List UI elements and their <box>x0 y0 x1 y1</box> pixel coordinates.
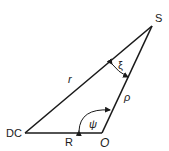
side-rho <box>102 26 152 133</box>
side-r <box>25 26 152 133</box>
triangle-diagram: S DC O R r ρ ξ ψ <box>0 0 169 151</box>
side-label-rho: ρ <box>123 91 130 103</box>
angle-label-xi: ξ <box>118 59 123 71</box>
vertex-label-o: O <box>100 136 109 150</box>
vertex-label-s: S <box>155 12 162 24</box>
vertex-label-dc: DC <box>6 127 22 139</box>
side-label-R: R <box>65 136 73 148</box>
side-label-r: r <box>68 73 73 85</box>
angle-label-psi: ψ <box>89 118 97 130</box>
